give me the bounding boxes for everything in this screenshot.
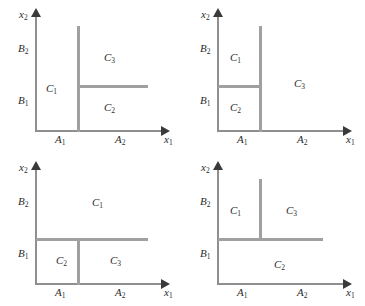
partition-divider-vertical	[259, 179, 262, 241]
partition-diagram-figure: x2 x1 B2 B1 A1 A2 C1 C2 C3 x2 x1 B2 B1 A…	[0, 0, 365, 306]
y-tick-label-b2: B2	[18, 195, 28, 207]
panel-top-left: x2 x1 B2 B1 A1 A2 C1 C2 C3	[0, 0, 182, 153]
x-axis-label: x1	[346, 286, 355, 298]
partition-divider-vertical	[77, 26, 80, 132]
y-axis-line	[217, 14, 219, 132]
partition-divider-horizontal	[77, 85, 148, 88]
x-tick-label-a2: A2	[115, 133, 125, 145]
y-axis-label: x2	[19, 161, 28, 173]
x-tick-label-a2: A2	[115, 286, 125, 298]
x-axis-line	[35, 130, 163, 132]
y-axis-arrow-icon	[31, 161, 41, 170]
y-axis-arrow-icon	[213, 8, 223, 17]
y-tick-label-b1: B1	[18, 94, 28, 106]
x-axis-line	[35, 283, 163, 285]
y-tick-label-b1: B1	[200, 247, 210, 259]
y-axis-arrow-icon	[31, 8, 41, 17]
class-region-label-c3: C3	[294, 77, 305, 89]
partition-divider-vertical	[77, 238, 80, 285]
x-axis-label: x1	[164, 286, 173, 298]
x-tick-label-a1: A1	[237, 286, 247, 298]
x-tick-label-a1: A1	[55, 133, 65, 145]
class-region-label-c2: C2	[104, 101, 115, 113]
class-region-label-c3: C3	[104, 51, 115, 63]
y-tick-label-b2: B2	[200, 195, 210, 207]
class-region-label-c1: C1	[46, 82, 57, 94]
y-axis-line	[35, 14, 37, 132]
x-tick-label-a1: A1	[237, 133, 247, 145]
x-axis-label: x1	[346, 133, 355, 145]
y-tick-label-b2: B2	[200, 42, 210, 54]
y-axis-line	[35, 167, 37, 285]
panel-bottom-right: x2 x1 B2 B1 A1 A2 C1 C3 C2	[182, 153, 364, 306]
x-axis-line	[217, 283, 345, 285]
x-tick-label-a2: A2	[297, 286, 307, 298]
y-axis-label: x2	[201, 161, 210, 173]
class-region-label-c2: C2	[274, 258, 285, 270]
class-region-label-c2: C2	[56, 254, 67, 266]
partition-divider-vertical	[259, 26, 262, 132]
panel-bottom-left: x2 x1 B2 B1 A1 A2 C1 C2 C3	[0, 153, 182, 306]
class-region-label-c3: C3	[286, 204, 297, 216]
panel-top-right: x2 x1 B2 B1 A1 A2 C1 C2 C3	[182, 0, 364, 153]
y-axis-arrow-icon	[213, 161, 223, 170]
x-tick-label-a2: A2	[297, 133, 307, 145]
y-axis-label: x2	[19, 8, 28, 20]
partition-divider-horizontal	[218, 238, 323, 241]
y-tick-label-b1: B1	[200, 94, 210, 106]
class-region-label-c2: C2	[230, 101, 241, 113]
partition-divider-horizontal	[36, 238, 148, 241]
class-region-label-c1: C1	[230, 51, 241, 63]
x-axis-label: x1	[164, 133, 173, 145]
y-axis-line	[217, 167, 219, 285]
y-axis-label: x2	[201, 8, 210, 20]
y-tick-label-b2: B2	[18, 42, 28, 54]
partition-divider-horizontal	[218, 85, 262, 88]
y-tick-label-b1: B1	[18, 247, 28, 259]
class-region-label-c1: C1	[230, 204, 241, 216]
class-region-label-c3: C3	[110, 254, 121, 266]
x-axis-line	[217, 130, 345, 132]
x-tick-label-a1: A1	[55, 286, 65, 298]
class-region-label-c1: C1	[92, 196, 103, 208]
